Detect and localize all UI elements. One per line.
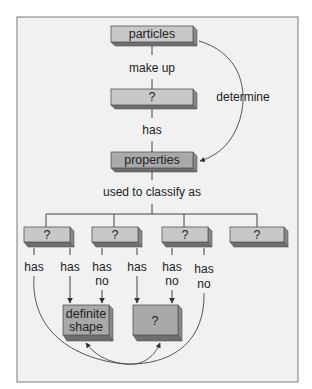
- node-particles-label: particles: [129, 27, 176, 41]
- node-class-2-label: ?: [112, 228, 119, 242]
- node-unknown-middle: ?: [111, 89, 197, 109]
- node-class-2: ?: [92, 227, 142, 247]
- node-definite-shape: definite shape: [63, 305, 113, 341]
- link-has: has: [142, 123, 161, 137]
- node-class-4-label: ?: [254, 228, 261, 242]
- link-determine: determine: [216, 90, 270, 104]
- link-c2-right: has: [127, 260, 146, 274]
- link-c3-left-no: no: [165, 274, 179, 288]
- node-class-4: ?: [230, 227, 288, 247]
- node-class-1-label: ?: [44, 228, 51, 242]
- link-c3-right-has: has: [194, 262, 213, 276]
- node-class-3: ?: [162, 227, 212, 247]
- concept-map: particles make up ? has properties deter…: [0, 0, 312, 389]
- node-properties: properties: [111, 152, 197, 172]
- link-c3-right-no: no: [197, 277, 211, 291]
- node-definite-shape-line2: shape: [69, 320, 103, 334]
- node-particles: particles: [111, 26, 197, 46]
- link-c1-right: has: [60, 260, 79, 274]
- link-c3-left-has: has: [162, 260, 181, 274]
- node-unknown-middle-label: ?: [149, 90, 156, 104]
- link-used-to-classify-as: used to classify as: [103, 185, 201, 199]
- node-unknown-bottom: ?: [133, 305, 182, 341]
- node-properties-label: properties: [124, 153, 180, 167]
- link-c2-left-no: no: [95, 274, 109, 288]
- node-definite-shape-line1: definite: [66, 307, 106, 321]
- link-c2-left-has: has: [92, 260, 111, 274]
- link-make-up: make up: [129, 61, 175, 75]
- node-unknown-bottom-label: ?: [152, 314, 159, 328]
- link-c1-left: has: [24, 260, 43, 274]
- node-class-3-label: ?: [182, 228, 189, 242]
- node-class-1: ?: [24, 227, 74, 247]
